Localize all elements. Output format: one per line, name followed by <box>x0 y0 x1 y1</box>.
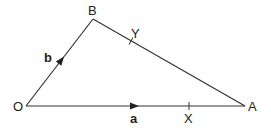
segment-ba <box>93 19 245 106</box>
label-y: Y <box>131 26 140 41</box>
label-b: B <box>88 3 97 18</box>
vector-triangle-diagram: O A B X Y a b <box>0 0 271 133</box>
label-x: X <box>184 111 193 126</box>
label-o: O <box>13 99 23 114</box>
vector-label-a: a <box>130 111 138 126</box>
label-a: A <box>248 99 257 114</box>
arrowhead-a-icon <box>130 103 139 110</box>
vector-label-b: b <box>44 50 52 65</box>
